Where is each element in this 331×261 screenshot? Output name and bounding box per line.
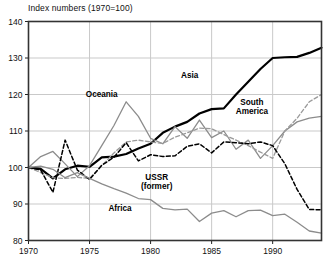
y-tick-label: 100 bbox=[8, 163, 22, 173]
series-line-africa bbox=[29, 166, 322, 233]
series-line-oceania bbox=[29, 102, 322, 177]
plot-area-wrapper: 8090100110120130140 19701975198019851990… bbox=[0, 0, 331, 261]
series-line-south-america bbox=[29, 95, 322, 179]
x-axis-ticks: 19701975198019851990 bbox=[19, 241, 282, 256]
y-axis-ticks: 8090100110120130140 bbox=[8, 17, 28, 246]
gridlines bbox=[29, 22, 322, 241]
data-series bbox=[29, 48, 322, 233]
series-label-africa: Africa bbox=[108, 204, 132, 213]
y-tick-label: 110 bbox=[9, 126, 23, 136]
y-tick-label: 90 bbox=[13, 199, 23, 209]
chart-container: Index numbers (1970=100) 809010011012013… bbox=[0, 0, 331, 261]
y-tick-label: 140 bbox=[8, 17, 22, 27]
series-label-south-america: SouthAmerica bbox=[236, 98, 269, 116]
series-label-asia: Asia bbox=[181, 71, 199, 80]
line-chart-svg: 8090100110120130140 19701975198019851990… bbox=[0, 0, 331, 261]
y-tick-label: 80 bbox=[13, 236, 23, 246]
x-tick-label: 1980 bbox=[141, 246, 160, 256]
x-tick-label: 1975 bbox=[80, 246, 99, 256]
series-label-oceania: Oceania bbox=[86, 90, 118, 99]
series-labels: AsiaOceaniaSouthAmericaUSSR(former)Afric… bbox=[86, 71, 269, 212]
y-tick-label: 130 bbox=[8, 53, 22, 63]
series-label-ussr-former: USSR(former) bbox=[141, 173, 173, 191]
x-tick-label: 1985 bbox=[202, 246, 221, 256]
x-tick-label: 1990 bbox=[263, 246, 282, 256]
x-tick-label: 1970 bbox=[19, 246, 38, 256]
y-tick-label: 120 bbox=[8, 90, 22, 100]
